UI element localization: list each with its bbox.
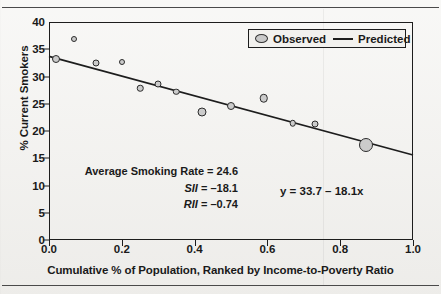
rii-text: RII = –0.74: [52, 196, 238, 213]
sii-value: = –18.1: [198, 182, 238, 194]
statistics-annotation: Average Smoking Rate = 24.6 SII = –18.1 …: [52, 163, 238, 213]
y-tick-mark: [43, 131, 49, 132]
observed-data-point: [119, 59, 125, 65]
observed-data-point: [173, 89, 180, 96]
regression-equation-annotation: y = 33.7 – 18.1x: [280, 185, 363, 197]
legend-item-predicted: Predicted: [333, 33, 410, 45]
chart-legend: Observed Predicted: [248, 29, 406, 48]
observed-data-point: [137, 85, 144, 92]
scatter-chart-figure: 0510152025303540 0.00.20.40.60.81.0 % Cu…: [0, 0, 441, 294]
observed-data-point: [227, 102, 235, 110]
y-tick-label: 40: [32, 16, 45, 28]
x-tick-mark: [413, 240, 414, 246]
observed-data-point: [260, 94, 269, 103]
observed-data-point: [93, 59, 100, 66]
legend-item-observed: Observed: [255, 33, 326, 45]
y-tick-mark: [43, 49, 49, 50]
x-tick-mark: [267, 240, 268, 246]
legend-label-observed: Observed: [273, 33, 326, 45]
rii-value: = –0.74: [198, 198, 238, 210]
x-tick-mark: [195, 240, 196, 246]
observed-data-point: [359, 138, 373, 152]
legend-label-predicted: Predicted: [358, 33, 410, 45]
circle-marker-icon: [255, 34, 268, 43]
sii-text: SII = –18.1: [52, 180, 238, 197]
x-tick-mark: [340, 240, 341, 246]
observed-data-point: [52, 55, 60, 63]
observed-data-point: [155, 81, 162, 88]
x-tick-mark: [49, 240, 50, 246]
y-tick-mark: [43, 212, 49, 213]
y-axis-label: % Current Smokers: [18, 18, 30, 178]
observed-data-point: [290, 120, 297, 127]
line-marker-icon: [333, 38, 353, 40]
average-smoking-rate-text: Average Smoking Rate = 24.6: [52, 163, 238, 180]
rii-label: RII: [184, 198, 198, 210]
y-tick-mark: [43, 76, 49, 77]
sii-label: SII: [184, 182, 197, 194]
observed-data-point: [311, 121, 318, 128]
y-tick-mark: [43, 185, 49, 186]
x-tick-mark: [122, 240, 123, 246]
y-tick-mark: [43, 103, 49, 104]
observed-data-point: [71, 36, 77, 42]
observed-data-point: [197, 108, 206, 117]
y-tick-mark: [43, 158, 49, 159]
x-axis-label: Cumulative % of Population, Ranked by In…: [0, 264, 441, 276]
